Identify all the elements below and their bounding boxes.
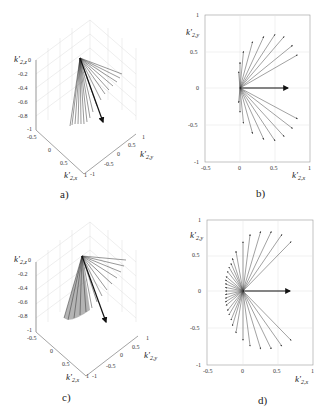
svg-text:-0.5: -0.5 — [104, 161, 114, 167]
vector — [240, 88, 275, 141]
svg-text:-0.4: -0.4 — [18, 285, 28, 291]
vector — [243, 291, 291, 340]
svg-text:-0.5: -0.5 — [27, 134, 37, 140]
y-axis-label: k'2,y — [140, 149, 153, 160]
svg-text:k'2,x: k'2,x — [66, 372, 79, 383]
z-axis-label: k'2,z — [14, 54, 27, 65]
vector — [243, 291, 271, 349]
svg-text:1: 1 — [142, 134, 145, 140]
vector — [240, 37, 284, 88]
svg-text:-0.5: -0.5 — [106, 363, 116, 369]
x-axis-label: k'2,x — [64, 170, 77, 181]
svg-text:0.5: 0.5 — [60, 160, 68, 166]
svg-text:-1: -1 — [27, 327, 32, 333]
figure: 0 -0.2-0.4-0.6-0.8-1 -0.500.51 -1-0.500.… — [0, 0, 328, 415]
svg-text:1: 1 — [86, 373, 89, 379]
vector — [226, 291, 243, 306]
svg-text:-0.5: -0.5 — [190, 325, 200, 331]
svg-text:-0.5: -0.5 — [188, 122, 198, 128]
svg-text:-1: -1 — [90, 171, 95, 177]
vector — [240, 55, 297, 88]
svg-text:-0.5: -0.5 — [203, 368, 213, 374]
svg-text:-1: -1 — [194, 159, 199, 165]
vector — [232, 258, 243, 291]
svg-text:-0.6: -0.6 — [18, 99, 28, 105]
svg-text:-0.2: -0.2 — [18, 71, 28, 77]
vector — [240, 34, 275, 88]
panel-b-quiver-plot: 10.50-0.5-1 -0.500.51 k'2,y k'2,x b) — [186, 12, 311, 200]
vector — [240, 88, 293, 128]
vector — [240, 88, 244, 123]
vector — [243, 232, 271, 291]
svg-text:0: 0 — [28, 257, 31, 263]
svg-text:-0.5: -0.5 — [201, 165, 211, 171]
caption-c: c) — [62, 391, 71, 404]
svg-text:-0.4: -0.4 — [18, 85, 28, 91]
vector — [240, 88, 297, 119]
svg-text:0.5: 0.5 — [270, 165, 278, 171]
svg-text:0: 0 — [241, 368, 244, 374]
svg-text:1: 1 — [84, 172, 87, 178]
svg-text:1: 1 — [196, 12, 199, 18]
svg-text:0.5: 0.5 — [190, 49, 198, 55]
svg-text:k'2,x: k'2,x — [295, 374, 308, 385]
svg-text:1: 1 — [146, 335, 149, 341]
svg-text:0.5: 0.5 — [128, 142, 136, 148]
caption-b: b) — [256, 187, 266, 200]
svg-text:k'2,z: k'2,z — [14, 254, 27, 265]
svg-text:0.5: 0.5 — [192, 252, 200, 258]
y-axis-label: k'2,y — [186, 27, 199, 38]
svg-text:-0.8: -0.8 — [18, 313, 28, 319]
svg-text:1: 1 — [308, 165, 311, 171]
svg-text:0: 0 — [48, 147, 51, 153]
svg-text:-0.8: -0.8 — [18, 113, 28, 119]
svg-text:-1: -1 — [92, 373, 97, 379]
caption-d: d) — [258, 394, 268, 407]
svg-text:0.5: 0.5 — [62, 361, 70, 367]
panel-d-quiver-plot: 10.50-0.5-1 -0.500.51 k'2,y k'2,x d) — [190, 217, 314, 407]
panel-c-3d-plot: 0-0.2-0.4-0.6-0.8-1 -0.500.51 -1-0.500.5… — [14, 222, 157, 404]
svg-text:-1: -1 — [27, 126, 32, 132]
svg-text:-0.6: -0.6 — [18, 299, 28, 305]
svg-text:0: 0 — [50, 348, 53, 354]
x-axis-label: k'2,x — [292, 170, 305, 181]
tick-z: 0 — [28, 57, 31, 63]
svg-text:0: 0 — [120, 352, 123, 358]
svg-text:0: 0 — [198, 288, 201, 294]
svg-text:k'2,y: k'2,y — [144, 350, 157, 361]
svg-text:1: 1 — [311, 368, 314, 374]
svg-text:0: 0 — [117, 151, 120, 157]
panel-a-3d-plot: 0 -0.2-0.4-0.6-0.8-1 -0.500.51 -1-0.500.… — [14, 20, 153, 201]
svg-text:-0.5: -0.5 — [27, 335, 37, 341]
svg-text:-0.2: -0.2 — [18, 271, 28, 277]
svg-text:-1: -1 — [196, 362, 201, 368]
svg-text:k'2,y: k'2,y — [190, 230, 203, 241]
svg-text:0: 0 — [238, 165, 241, 171]
vector — [243, 291, 261, 349]
svg-text:1: 1 — [198, 217, 201, 223]
caption-a: a) — [60, 188, 69, 201]
svg-text:0.5: 0.5 — [132, 344, 140, 350]
svg-text:0.5: 0.5 — [273, 368, 281, 374]
svg-text:0: 0 — [196, 85, 199, 91]
vector — [232, 291, 243, 326]
